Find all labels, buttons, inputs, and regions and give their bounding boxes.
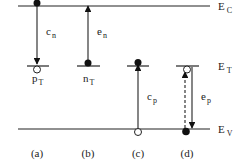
panel-c: cp (135, 59, 157, 136)
panel-b: en nT (83, 6, 107, 87)
electron-filled-icon (85, 60, 92, 67)
electron-filled-icon (182, 128, 190, 136)
rate-label-cn: cn (46, 25, 56, 40)
panel-label-c: (c) (132, 147, 145, 160)
panel-a: cn pT (32, 0, 56, 87)
valence-band-label: EV (218, 123, 233, 138)
panel-d: ep (182, 66, 211, 135)
panel-label-d: (d) (181, 147, 194, 160)
hole-hollow-icon (135, 129, 142, 136)
panel-label-a: (a) (31, 147, 44, 160)
trap-state-label-nt: nT (83, 72, 95, 87)
panel-label-b: (b) (82, 147, 95, 160)
trap-state-label-pt: pT (32, 72, 44, 87)
energy-band-diagram: EC ET EV cn pT en nT cp ep (a) (b) (c) (0, 0, 246, 166)
electron-filled-icon (135, 59, 142, 66)
trap-level-label: ET (218, 60, 232, 75)
rate-label-ep: ep (201, 90, 211, 105)
hole-hollow-icon (184, 66, 191, 73)
rate-label-en: en (97, 25, 107, 40)
conduction-band-label: EC (218, 0, 232, 15)
rate-label-cp: cp (147, 90, 157, 105)
